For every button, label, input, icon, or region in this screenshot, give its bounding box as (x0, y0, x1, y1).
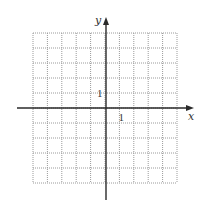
y-axis-label: y (94, 14, 102, 27)
coordinate-plane: x y 1 1 (0, 0, 204, 209)
x-axis-label: x (188, 110, 195, 123)
y-axis-arrow-icon (103, 17, 109, 25)
axes (17, 17, 194, 200)
y-unit-tick-label: 1 (97, 87, 103, 99)
x-unit-tick-label: 1 (118, 111, 124, 123)
